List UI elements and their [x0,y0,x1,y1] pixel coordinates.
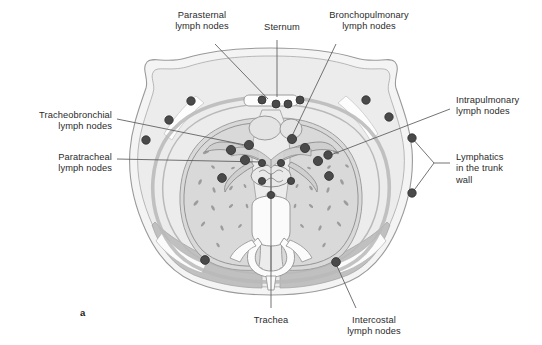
lymph-node-trunk-wall-right [385,113,393,121]
lymph-node-trunk-wall-right [408,134,416,142]
lymph-node-paratracheal [267,191,274,198]
lymph-node-parasternal [272,100,280,108]
lymph-node-tracheobronchial [240,155,249,164]
leader-lymphatics-trunk-lower [412,163,434,193]
label-trachea: Trachea [240,315,302,326]
label-tracheobronchial: Tracheobronchial lymph nodes [10,110,112,133]
ascending-aorta [249,116,281,140]
label-sternum: Sternum [252,22,312,33]
figure-container: Parasternal lymph nodes Sternum Bronchop… [0,0,542,345]
lymph-node-intrapulmonary [325,172,334,181]
lymph-node-bronchopulmonary [324,151,332,159]
label-lymphatics-trunk-wall: Lymphatics in the trunk wall [456,152,538,186]
lymph-node-tracheobronchial [244,140,253,149]
label-paratracheal: Paratracheal lymph nodes [10,152,112,175]
lymph-node-bronchopulmonary [287,134,296,143]
lymph-node-trunk-wall-left [165,116,173,124]
label-intrapulmonary: Intrapulmonary lymph nodes [456,95,542,118]
lymph-node-trunk-wall-right [408,189,416,197]
lymph-node-intrapulmonary [218,174,227,183]
label-parasternal: Parasternal lymph nodes [156,10,248,33]
leader-lymphatics-trunk [412,138,450,163]
figure-panel-label: a [80,307,85,318]
lymph-node-parasternal [296,96,304,104]
lymph-node-intercostal [332,258,341,267]
lymph-node-trunk-wall-left [187,97,195,105]
lymph-node-trunk-wall-right [362,96,370,104]
lymph-node-parasternal [284,100,292,108]
lymph-node-bronchopulmonary [313,156,322,165]
lymph-node-tracheobronchial [226,145,235,154]
lymph-node-paratracheal [258,159,265,166]
lymph-node-tracheobronchial [300,143,309,152]
lymph-node-trunk-wall-left [142,136,150,144]
lymph-node-intercostal [201,256,210,265]
lymph-node-parasternal [258,96,266,104]
lymph-node-paratracheal [258,177,265,184]
label-bronchopulmonary: Bronchopulmonary lymph nodes [314,10,424,33]
lymph-node-paratracheal [287,177,294,184]
lymph-node-paratracheal [277,159,284,166]
label-intercostal: Intercostal lymph nodes [330,315,418,338]
